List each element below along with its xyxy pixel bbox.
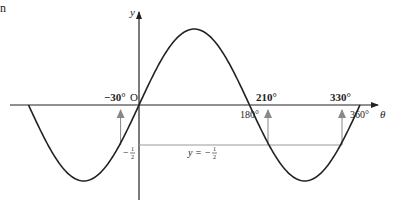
solution-minus-30-label: −30° (104, 91, 126, 103)
y-tick-half-num: 1 (131, 146, 134, 152)
tick-180-label: 180° (240, 109, 259, 120)
line-equation-label: y = − (187, 147, 211, 158)
line-half-num: 1 (213, 146, 216, 152)
corner-fragment-text: n (0, 1, 6, 15)
sine-graph: n y θ O −30° 210° 330° 180° 360° − 1 2 y… (0, 0, 400, 202)
solution-330-label: 330° (330, 91, 351, 103)
y-tick-half-den: 2 (131, 154, 134, 160)
arrow-head-icon (117, 109, 125, 118)
solution-210-label: 210° (256, 91, 277, 103)
line-half-den: 2 (213, 154, 216, 160)
tick-360-label: 360° (350, 109, 369, 120)
x-axis-label: θ (380, 108, 386, 120)
arrow-head-icon (264, 109, 272, 118)
y-axis-label: y (129, 6, 135, 18)
arrow-head-icon (338, 109, 346, 118)
origin-label: O (130, 91, 138, 103)
y-tick-minus: − (123, 147, 129, 158)
